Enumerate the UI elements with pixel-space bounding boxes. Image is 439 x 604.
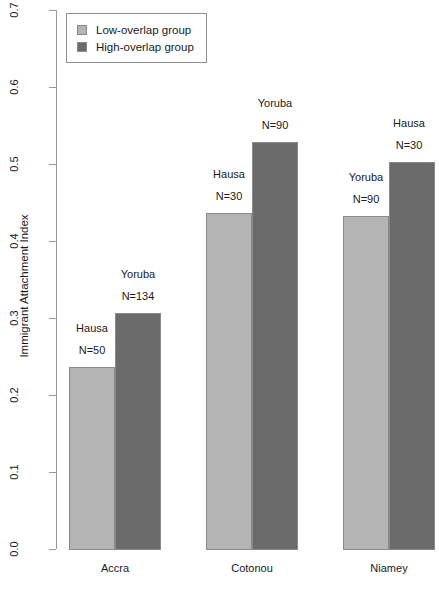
bar-annotation-ethnicity: Yoruba	[108, 269, 168, 280]
y-axis-tick-label: 0.1	[8, 442, 20, 502]
bar-annotation-accra-low: Hausa N=50	[62, 323, 122, 356]
y-axis-tick-label: 0.6	[8, 57, 20, 117]
y-axis-tick	[49, 318, 56, 319]
bar-annotation-accra-high: Yoruba N=134	[108, 269, 168, 302]
bar-niamey-high	[389, 162, 435, 550]
bar-accra-low	[69, 367, 115, 550]
bar-cotonou-low	[206, 213, 252, 550]
y-axis-line	[56, 10, 57, 549]
y-axis-tick	[49, 241, 56, 242]
bar-cotonou-high	[252, 142, 298, 550]
bar-annotation-cotonou-high: Yoruba N=90	[245, 98, 305, 131]
bar-annotation-niamey-high: Hausa N=30	[379, 118, 439, 151]
bar-annotation-count: N=30	[199, 191, 259, 202]
y-axis-tick-label: 0.7	[8, 0, 20, 40]
bar-annotation-ethnicity: Yoruba	[245, 98, 305, 109]
legend-item-low-overlap: Low-overlap group	[77, 21, 194, 38]
legend-label: Low-overlap group	[96, 24, 191, 36]
y-axis-title: Immigrant Attachment Index	[18, 176, 30, 396]
y-axis-tick	[49, 395, 56, 396]
bar-annotation-count: N=90	[245, 120, 305, 131]
y-axis-tick-label: 0.0	[8, 519, 20, 579]
y-axis-tick	[49, 164, 56, 165]
bar-niamey-low	[343, 216, 389, 550]
bar-annotation-ethnicity: Hausa	[379, 118, 439, 129]
bar-annotation-ethnicity: Hausa	[199, 169, 259, 180]
bar-annotation-ethnicity: Hausa	[62, 323, 122, 334]
bar-annotation-count: N=90	[336, 194, 396, 205]
x-axis-label-cotonou: Cotonou	[222, 562, 282, 574]
bar-annotation-count: N=50	[62, 345, 122, 356]
y-axis-tick	[49, 549, 56, 550]
bar-annotation-count: N=134	[108, 291, 168, 302]
legend-swatch-icon	[77, 25, 87, 35]
bar-annotation-count: N=30	[379, 140, 439, 151]
bar-annotation-ethnicity: Yoruba	[336, 172, 396, 183]
legend-label: High-overlap group	[96, 41, 194, 53]
y-axis-tick	[49, 10, 56, 11]
legend: Low-overlap group High-overlap group	[66, 13, 207, 63]
x-axis-label-niamey: Niamey	[359, 562, 419, 574]
y-axis-tick	[49, 87, 56, 88]
legend-swatch-icon	[77, 42, 87, 52]
x-axis-label-accra: Accra	[85, 562, 145, 574]
y-axis-tick	[49, 472, 56, 473]
bar-annotation-niamey-low: Yoruba N=90	[336, 172, 396, 205]
bar-annotation-cotonou-low: Hausa N=30	[199, 169, 259, 202]
legend-item-high-overlap: High-overlap group	[77, 38, 194, 55]
